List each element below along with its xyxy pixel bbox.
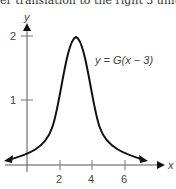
curve-left-arrow-icon [4, 155, 13, 163]
x-tick-label-2: 2 [56, 173, 62, 185]
x-tick-label-4: 4 [88, 173, 94, 185]
y-axis-label: y [23, 11, 31, 23]
curve-right-arrow-icon [139, 155, 148, 163]
y-tick-label-2: 2 [10, 30, 16, 42]
x-axis-label: x [167, 159, 174, 171]
curve-label: y = G(x − 3) [94, 54, 153, 66]
chart: y x 2 1 2 4 6 y = G(x − 3) [0, 0, 176, 189]
y-tick-label-1: 1 [10, 94, 16, 106]
x-tick-label-6: 6 [121, 173, 127, 185]
